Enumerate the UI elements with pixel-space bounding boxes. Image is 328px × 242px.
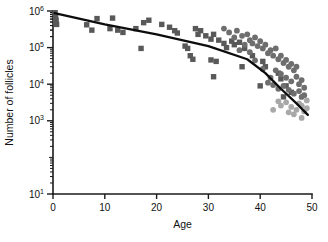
data-point-square — [110, 15, 115, 20]
data-point-circle — [221, 26, 227, 32]
data-point-square — [260, 59, 265, 64]
x-tick-label: 10 — [99, 202, 111, 213]
x-tick-label: 30 — [203, 202, 215, 213]
data-point-square — [239, 64, 244, 69]
data-point-circle — [255, 43, 261, 49]
data-point-circle — [252, 34, 258, 40]
data-point-square — [258, 83, 263, 88]
y-tick-label: 103 — [29, 114, 44, 126]
data-point-square — [232, 42, 237, 47]
data-point-circle — [286, 87, 292, 93]
follicle-count-chart: 01020304050101103104105106AgeNumber of f… — [0, 0, 328, 242]
data-point-square — [216, 37, 221, 42]
data-point-square — [208, 57, 213, 62]
data-point-square — [54, 22, 59, 27]
data-point-square — [211, 74, 216, 79]
data-point-circle — [283, 99, 289, 105]
data-point-circle — [265, 80, 271, 86]
data-point-circle — [250, 41, 256, 47]
data-point-circle — [247, 49, 253, 55]
data-point-square — [141, 20, 146, 25]
data-point-square — [237, 40, 242, 45]
data-point-square — [190, 57, 195, 62]
data-point-square — [138, 46, 143, 51]
data-point-square — [94, 16, 99, 21]
data-point-circle — [278, 53, 284, 59]
chart-canvas: 01020304050101103104105106AgeNumber of f… — [0, 0, 328, 242]
y-tick-label: 104 — [29, 78, 44, 90]
y-tick-label: 106 — [29, 5, 44, 17]
data-point-square — [203, 33, 208, 38]
data-point-square — [208, 36, 213, 41]
data-point-square — [185, 46, 190, 51]
data-point-circle — [288, 78, 294, 84]
x-tick-label: 20 — [151, 202, 163, 213]
data-point-circle — [291, 91, 297, 97]
data-point-circle — [283, 57, 289, 63]
data-point-square — [167, 25, 172, 30]
data-point-circle — [288, 104, 294, 110]
data-point-circle — [278, 71, 284, 77]
data-point-circle — [268, 47, 274, 53]
data-point-circle — [286, 109, 292, 115]
data-point-circle — [226, 30, 232, 36]
data-point-circle — [299, 77, 305, 83]
data-point-square — [159, 22, 164, 27]
data-point-circle — [262, 42, 268, 48]
y-tick-label: 101 — [29, 188, 44, 200]
y-axis-title: Number of follicles — [3, 59, 15, 145]
data-point-circle — [296, 88, 302, 94]
data-point-square — [213, 59, 218, 64]
data-point-circle — [275, 98, 281, 104]
data-point-circle — [234, 28, 240, 34]
data-point-square — [281, 94, 286, 99]
x-tick-label: 50 — [306, 202, 318, 213]
data-point-circle — [294, 74, 300, 80]
data-point-circle — [273, 46, 279, 52]
x-tick-label: 40 — [255, 202, 267, 213]
data-point-square — [89, 27, 94, 32]
y-tick-label: 105 — [29, 41, 44, 53]
data-point-circle — [242, 42, 248, 48]
data-point-square — [211, 32, 216, 37]
data-point-square — [195, 32, 200, 37]
data-point-square — [278, 76, 283, 81]
data-point-square — [84, 22, 89, 27]
data-point-square — [146, 18, 151, 23]
data-point-circle — [257, 38, 263, 44]
data-point-circle — [239, 33, 245, 39]
x-axis-title: Age — [173, 218, 192, 230]
data-point-circle — [291, 111, 297, 117]
data-point-circle — [294, 64, 300, 70]
data-point-circle — [270, 107, 276, 113]
data-point-square — [175, 30, 180, 35]
x-tick-label: 0 — [50, 202, 56, 213]
data-point-square — [224, 45, 229, 50]
data-point-square — [193, 26, 198, 31]
data-point-circle — [301, 92, 307, 98]
data-point-circle — [283, 75, 289, 81]
data-point-circle — [244, 31, 250, 37]
data-point-circle — [301, 85, 307, 91]
data-point-circle — [304, 98, 310, 104]
data-point-circle — [299, 115, 305, 121]
data-point-circle — [237, 47, 243, 53]
data-point-circle — [231, 34, 237, 40]
data-point-circle — [288, 61, 294, 67]
data-point-square — [120, 30, 125, 35]
data-point-circle — [270, 53, 276, 59]
data-point-circle — [273, 67, 279, 73]
